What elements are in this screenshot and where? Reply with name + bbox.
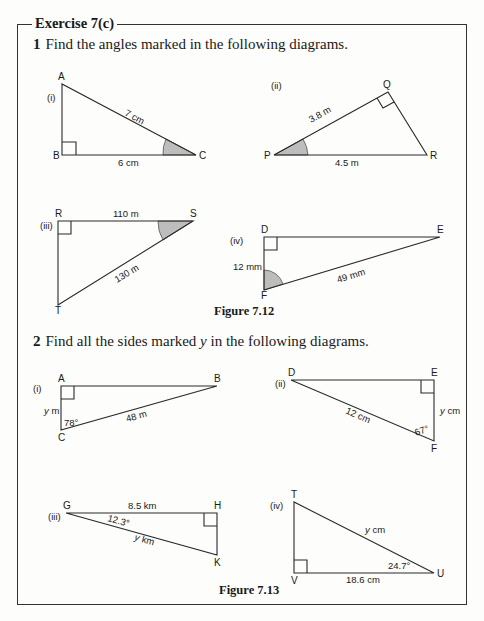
svg-text:T: T — [55, 305, 61, 316]
svg-text:E: E — [431, 367, 438, 378]
svg-text:18.6 cm: 18.6 cm — [346, 574, 380, 585]
q1-diagram-ii — [274, 92, 427, 155]
svg-text:12.3°: 12.3° — [106, 512, 131, 528]
svg-text:y cm: y cm — [439, 405, 460, 416]
svg-text:D: D — [261, 224, 268, 235]
svg-text:(iv): (iv) — [230, 235, 243, 246]
svg-text:B: B — [53, 150, 60, 161]
svg-text:P: P — [264, 150, 271, 161]
svg-text:A: A — [58, 373, 65, 384]
svg-text:49 mm: 49 mm — [335, 266, 366, 285]
svg-text:G: G — [63, 500, 71, 511]
svg-text:C: C — [199, 150, 206, 161]
svg-text:(iv): (iv) — [270, 500, 283, 511]
svg-text:y m: y m — [43, 405, 59, 416]
svg-text:D: D — [288, 367, 295, 378]
svg-text:7 cm: 7 cm — [123, 107, 146, 126]
svg-text:K: K — [214, 557, 221, 568]
svg-text:F: F — [431, 443, 437, 454]
svg-text:(ii): (ii) — [275, 378, 286, 389]
svg-text:3.8 m: 3.8 m — [307, 104, 333, 125]
svg-text:Q: Q — [383, 79, 391, 90]
svg-text:110 m: 110 m — [113, 208, 139, 219]
svg-text:(iii): (iii) — [40, 220, 53, 231]
q2-diagram-i — [61, 386, 217, 430]
svg-text:R: R — [55, 208, 62, 219]
svg-text:y cm: y cm — [364, 524, 385, 535]
svg-text:U: U — [437, 568, 444, 579]
svg-text:y km: y km — [133, 531, 156, 547]
svg-text:48 m: 48 m — [125, 408, 148, 424]
svg-text:67°: 67° — [413, 423, 430, 438]
svg-text:(i): (i) — [33, 383, 41, 394]
svg-text:6 cm: 6 cm — [118, 157, 139, 168]
svg-text:4.5 m: 4.5 m — [335, 157, 359, 168]
svg-text:8.5 km: 8.5 km — [128, 500, 157, 511]
svg-text:E: E — [437, 224, 444, 235]
svg-text:12 cm: 12 cm — [344, 405, 372, 426]
svg-text:F: F — [261, 290, 267, 301]
svg-text:V: V — [291, 575, 298, 586]
figure-7-13-caption: Figure 7.13 — [219, 583, 279, 598]
svg-text:B: B — [214, 373, 221, 384]
svg-text:C: C — [58, 432, 65, 443]
svg-text:R: R — [430, 150, 437, 161]
svg-text:S: S — [190, 208, 197, 219]
q1-diagram-iii — [58, 221, 193, 305]
svg-text:(iii): (iii) — [48, 511, 61, 522]
svg-text:24.7°: 24.7° — [388, 560, 410, 571]
figure-7-12-caption: Figure 7.12 — [214, 304, 274, 319]
q1-diagram-iv — [264, 237, 440, 290]
svg-text:12 mm: 12 mm — [233, 261, 262, 272]
svg-text:A: A — [58, 71, 65, 82]
svg-text:H: H — [214, 500, 221, 511]
svg-text:130 m: 130 m — [112, 262, 140, 285]
svg-text:T: T — [291, 489, 297, 500]
svg-text:78°: 78° — [64, 417, 79, 428]
svg-text:(i): (i) — [47, 92, 55, 103]
q2-diagram-iv — [294, 502, 434, 573]
svg-text:(ii): (ii) — [271, 80, 282, 91]
